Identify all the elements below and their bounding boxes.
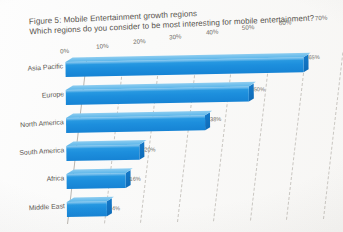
bar-middle-east[interactable]: 4% (67, 201, 107, 217)
figure-page: Figure 5: Mobile Entertainment growth re… (0, 0, 343, 232)
gridline-60 (286, 53, 306, 219)
gridline-40 (213, 55, 233, 221)
bar-value-label: 50% (254, 86, 265, 92)
plot-area: 0% 10% 20% 30% 40% 50% 60% 70% 65% 50% (65, 53, 323, 224)
gridline-50 (250, 54, 270, 220)
y-axis-label-south-america: South America (19, 146, 64, 156)
bar-south-america[interactable]: 20% (66, 145, 139, 161)
y-axis-label-north-america: North America (20, 118, 64, 128)
x-tick-30: 30% (169, 32, 182, 40)
y-axis-label-africa: Africa (47, 174, 65, 182)
x-tick-20: 20% (133, 37, 146, 45)
bar-europe[interactable]: 50% (66, 86, 249, 105)
y-axis-label-europe: Europe (41, 90, 64, 99)
x-tick-50: 50% (242, 23, 255, 31)
gridline-30 (177, 55, 197, 221)
x-tick-40: 40% (206, 28, 219, 36)
y-axis-labels: Asia Pacific Europe North America South … (0, 58, 65, 225)
bar-africa[interactable]: 16% (67, 173, 126, 189)
y-axis-label-asia-pacific: Asia Pacific (28, 62, 64, 72)
bar-value-label: 38% (210, 116, 221, 122)
chart-figure: Figure 5: Mobile Entertainment growth re… (0, 0, 343, 232)
bar-value-label: 4% (112, 205, 120, 211)
figure-title-block: Figure 5: Mobile Entertainment growth re… (29, 2, 342, 38)
bar-value-label: 16% (130, 176, 141, 182)
x-tick-0: 0% (60, 47, 69, 55)
x-tick-60: 60% (279, 18, 292, 26)
x-tick-10: 10% (96, 42, 109, 50)
bar-front-face (66, 115, 205, 133)
gridline-70 (323, 53, 343, 219)
bar-front-face (66, 145, 139, 161)
y-axis-label-middle-east: Middle East (29, 202, 65, 211)
x-tick-70: 70% (315, 14, 328, 22)
bar-front-face (67, 201, 107, 217)
bar-north-america[interactable]: 38% (66, 115, 205, 133)
bar-front-face (67, 173, 126, 189)
bar-value-label: 65% (308, 54, 319, 60)
bar-value-label: 20% (144, 146, 155, 152)
